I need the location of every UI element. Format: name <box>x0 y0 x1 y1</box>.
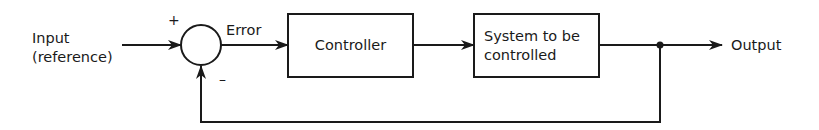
output-label: Output <box>731 37 782 53</box>
input-label-line1: Input <box>32 30 70 46</box>
error-label: Error <box>226 22 261 38</box>
minus-sign: – <box>219 71 226 87</box>
system-block <box>474 14 599 77</box>
system-label-line2: controlled <box>484 47 556 63</box>
block-diagram: Input (reference) + – Error Controller S… <box>0 0 819 130</box>
controller-label: Controller <box>315 37 386 53</box>
input-label-line2: (reference) <box>32 49 113 65</box>
summing-junction <box>181 25 221 65</box>
system-label-line1: System to be <box>484 28 580 44</box>
plus-sign: + <box>168 12 180 28</box>
